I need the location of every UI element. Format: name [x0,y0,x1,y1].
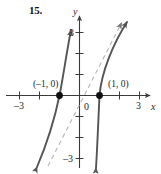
coordinate-plane-plot: –3 3 3 –3 0 x y (–1, 0) (1, 0) [0,0,161,174]
x-tick-label-three: 3 [136,100,141,111]
x-tick-label-negative-three: –3 [13,100,24,111]
left-point-label: (–1, 0) [33,79,58,90]
figure-container: 15. [0,0,161,174]
y-tick-label-negative-three: –3 [62,153,73,164]
origin-label: 0 [84,101,89,112]
left-curve [37,30,71,167]
point-marker-left [56,92,63,99]
y-axis-label: y [72,6,78,17]
x-axis-label: x [150,101,156,112]
y-tick-label-three: 3 [69,27,74,38]
right-point-label: (1, 0) [108,79,129,90]
point-marker-right [96,92,103,99]
